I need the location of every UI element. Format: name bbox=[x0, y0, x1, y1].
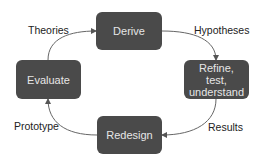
node-refine-line-1: Refine, bbox=[199, 62, 234, 74]
node-evaluate-label: Evaluate bbox=[27, 74, 70, 86]
node-refine-line-2: test, bbox=[206, 74, 227, 86]
edge-label-theories: Theories bbox=[28, 24, 69, 36]
node-refine: Refine, test, understand bbox=[184, 60, 249, 99]
node-derive: Derive bbox=[96, 12, 162, 50]
edge-label-prototype: Prototype bbox=[14, 120, 59, 132]
node-derive-label: Derive bbox=[113, 25, 145, 37]
edge-label-results: Results bbox=[208, 121, 243, 133]
node-redesign: Redesign bbox=[97, 116, 162, 154]
node-evaluate: Evaluate bbox=[16, 60, 81, 99]
node-refine-line-3: understand bbox=[189, 86, 244, 98]
node-redesign-label: Redesign bbox=[106, 129, 152, 141]
edge-label-hypotheses: Hypotheses bbox=[194, 24, 249, 36]
